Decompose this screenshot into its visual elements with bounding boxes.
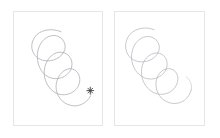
sketch-panel-left[interactable] [13,11,103,126]
spiral-sketch-right [115,12,204,125]
sketch-panel-left-inner [14,12,102,125]
sketch-panel-right[interactable] [114,11,205,126]
sketch-panel-right-inner [115,12,204,125]
asterisk-marker-icon [87,87,94,94]
screenshot-canvas [0,0,220,138]
spiral-stroke-left [32,30,90,106]
spiral-tail-right [186,77,191,90]
spiral-sketch-left [14,12,102,125]
spiral-stroke-right [126,28,192,104]
